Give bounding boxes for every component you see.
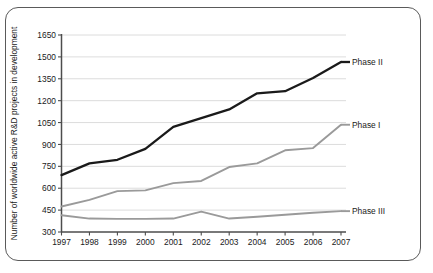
y-tick-label: 300 [42, 227, 56, 237]
line-chart: 30045060075090010501200135015001650 1997… [0, 0, 433, 273]
y-tick-label: 450 [42, 205, 56, 215]
x-tick-label: 2000 [136, 237, 155, 247]
series-line-phase-i [62, 125, 342, 207]
y-tick-label: 1050 [37, 118, 56, 128]
x-tick-label: 1997 [52, 237, 71, 247]
gridlines [62, 35, 347, 210]
y-axis-tick-labels: 30045060075090010501200135015001650 [37, 30, 56, 237]
chart-figure: 30045060075090010501200135015001650 1997… [0, 0, 433, 273]
x-axis [62, 232, 347, 236]
x-tick-label: 2003 [220, 237, 239, 247]
series-line-phase-iii [62, 211, 342, 219]
y-tick-label: 1200 [37, 96, 56, 106]
series-label-phase-iii: Phase III [352, 206, 385, 216]
x-tick-label: 2006 [304, 237, 323, 247]
x-tick-label: 2007 [332, 237, 351, 247]
y-tick-label: 1500 [37, 52, 56, 62]
y-axis-title-text: Number of worldwide active R&D projects … [9, 26, 19, 240]
series-label-phase-i: Phase I [352, 120, 380, 130]
y-axis-title: Number of worldwide active R&D projects … [9, 26, 19, 240]
x-tick-label: 2004 [248, 237, 267, 247]
y-tick-label: 1350 [37, 74, 56, 84]
x-tick-label: 2002 [192, 237, 211, 247]
data-series-group [62, 62, 342, 219]
y-tick-label: 600 [42, 183, 56, 193]
y-tick-label: 750 [42, 161, 56, 171]
x-axis-tick-labels: 1997199819992000200120022003200420052006… [52, 237, 350, 247]
x-tick-label: 1998 [80, 237, 99, 247]
x-tick-label: 2001 [164, 237, 183, 247]
y-tick-label: 900 [42, 140, 56, 150]
y-tick-label: 1650 [37, 30, 56, 40]
series-labels: Phase IIPhase IPhase III [341, 57, 385, 216]
series-label-phase-ii: Phase II [352, 57, 383, 67]
x-tick-label: 1999 [108, 237, 127, 247]
x-tick-label: 2005 [276, 237, 295, 247]
y-axis [58, 34, 62, 232]
